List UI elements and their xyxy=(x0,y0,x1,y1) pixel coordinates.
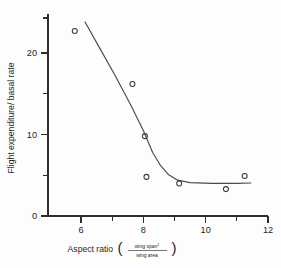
x-tick-label-6: 6 xyxy=(78,225,83,235)
scatter-plot: 0 10 20 6 8 10 12 Flight expenditure/ ba… xyxy=(0,0,281,268)
data-points-group xyxy=(72,29,247,192)
y-tick-label-0: 0 xyxy=(32,211,37,221)
y-axis-title: Flight expenditure/ basal rate xyxy=(6,62,16,173)
data-point xyxy=(177,181,182,186)
y-axis-major-ticks xyxy=(41,53,48,216)
x-axis-title-fraction: ( wing span2 wing area ) xyxy=(118,239,177,258)
data-point xyxy=(144,174,149,179)
y-tick-label-10: 10 xyxy=(27,130,37,140)
data-point xyxy=(242,174,247,179)
left-paren: ( xyxy=(118,239,123,256)
data-point xyxy=(223,187,228,192)
y-tick-label-20: 20 xyxy=(27,48,37,58)
fit-curve xyxy=(85,22,251,183)
fraction-numerator: wing span2 xyxy=(135,243,160,249)
figure-container: 0 10 20 6 8 10 12 Flight expenditure/ ba… xyxy=(0,0,281,268)
axis-lines xyxy=(48,14,268,216)
fraction-denominator: wing area xyxy=(136,252,158,258)
data-point xyxy=(72,29,77,34)
x-tick-label-12: 12 xyxy=(263,225,273,235)
x-tick-label-10: 10 xyxy=(201,225,211,235)
data-point xyxy=(130,81,135,86)
right-paren: ) xyxy=(172,239,177,256)
y-axis-minor-ticks xyxy=(43,18,48,175)
x-axis-title: Aspect ratio xyxy=(68,244,114,254)
x-tick-label-8: 8 xyxy=(141,225,146,235)
x-axis-minor-ticks xyxy=(112,216,237,221)
